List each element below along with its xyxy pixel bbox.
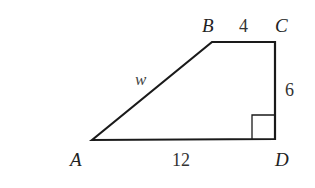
side-label-cd: 6: [285, 80, 294, 100]
trapezoid-diagram: B C A D 4 6 12 w: [0, 0, 315, 188]
side-label-ab: w: [135, 70, 147, 89]
trapezoid-abcd: [92, 42, 275, 140]
vertex-label-d: D: [274, 149, 289, 170]
side-label-ad: 12: [172, 150, 190, 170]
vertex-label-a: A: [68, 149, 82, 170]
vertex-label-b: B: [202, 15, 214, 36]
side-label-bc: 4: [239, 16, 248, 36]
right-angle-marker: [252, 115, 275, 139]
vertex-label-c: C: [275, 15, 288, 36]
